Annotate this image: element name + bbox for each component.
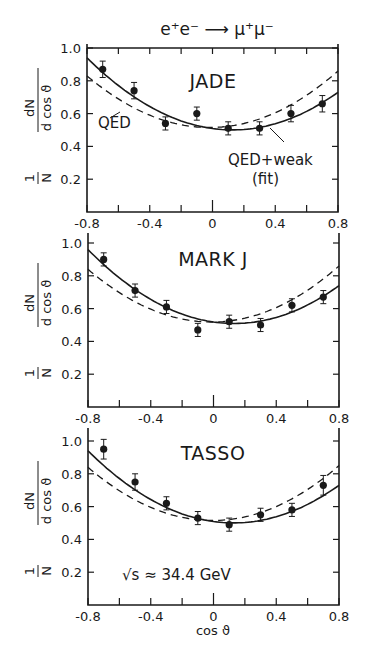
x-tick-label: -0.4 bbox=[138, 609, 163, 624]
marker-dot bbox=[162, 120, 169, 127]
panel-label: MARK J bbox=[178, 248, 248, 270]
y-axis-label: dNd cos ϑ1N bbox=[22, 461, 54, 577]
y-tick-label: 1.0 bbox=[61, 434, 82, 449]
y-tick-label: 0.4 bbox=[60, 139, 81, 154]
data-point bbox=[162, 117, 169, 130]
marker-dot bbox=[194, 326, 201, 333]
y-axis-label: dNd cos ϑ1N bbox=[22, 263, 54, 379]
marker-dot bbox=[320, 482, 327, 489]
data-point bbox=[226, 315, 233, 328]
x-tick-label: 0 bbox=[209, 411, 217, 426]
x-tick-label: 0.8 bbox=[328, 216, 349, 231]
qed-curve bbox=[88, 466, 339, 521]
y-tick-label: 0.2 bbox=[60, 172, 81, 187]
data-point bbox=[193, 107, 200, 120]
data-point bbox=[225, 122, 232, 135]
marker-dot bbox=[256, 125, 263, 132]
marker-dot bbox=[226, 318, 233, 325]
data-point bbox=[130, 82, 137, 98]
data-point bbox=[100, 253, 107, 266]
marker-dot bbox=[257, 511, 264, 518]
marker-dot bbox=[288, 302, 295, 309]
data-point bbox=[194, 512, 201, 525]
marker-dot bbox=[288, 506, 295, 513]
marker-dot bbox=[163, 500, 170, 507]
x-axis-label: cos ϑ bbox=[196, 623, 230, 638]
y-label-one: 1 bbox=[22, 567, 37, 575]
y-tick-label: 0.4 bbox=[61, 334, 82, 349]
x-tick-label: 0.4 bbox=[265, 216, 286, 231]
x-tick-label: -0.8 bbox=[74, 216, 99, 231]
figure: e⁺e⁻ ⟶ μ⁺μ⁻ -0.8-0.400.40.80.20.40.60.81… bbox=[0, 0, 368, 661]
y-tick-label: 0.6 bbox=[61, 302, 82, 317]
marker-dot bbox=[130, 87, 137, 94]
panel-mark-j: -0.8-0.400.40.80.20.40.60.81.0dNd cos ϑ1… bbox=[22, 233, 349, 426]
y-label-numerator: dN bbox=[22, 492, 37, 510]
y-tick-label: 0.2 bbox=[61, 367, 82, 382]
data-point bbox=[163, 300, 170, 313]
energy-annotation: √s ≈ 34.4 GeV bbox=[122, 566, 231, 584]
panel-label: JADE bbox=[189, 70, 237, 92]
data-point bbox=[194, 323, 201, 336]
marker-dot bbox=[287, 110, 294, 117]
x-tick-label: -0.4 bbox=[138, 411, 163, 426]
y-tick-label: 0.8 bbox=[61, 467, 82, 482]
y-label-one: 1 bbox=[22, 369, 37, 377]
x-tick-label: -0.8 bbox=[75, 609, 100, 624]
y-label-denominator: d cos ϑ bbox=[39, 85, 54, 131]
qed-weak-label: QED+weak bbox=[228, 151, 313, 169]
qed-label: QED bbox=[98, 114, 131, 132]
data-point bbox=[320, 475, 327, 495]
y-axis-label: dNd cos ϑ1N bbox=[22, 68, 54, 184]
y-tick-label: 0.2 bbox=[61, 565, 82, 580]
y-tick-label: 1.0 bbox=[61, 236, 82, 251]
marker-dot bbox=[319, 100, 326, 107]
x-tick-label: 0.8 bbox=[329, 411, 350, 426]
y-label-n: N bbox=[39, 368, 54, 378]
marker-dot bbox=[226, 521, 233, 528]
x-tick-label: 0.4 bbox=[266, 609, 287, 624]
marker-dot bbox=[100, 256, 107, 263]
y-label-one: 1 bbox=[22, 174, 37, 182]
y-label-denominator: d cos ϑ bbox=[39, 478, 54, 524]
marker-dot bbox=[131, 478, 138, 485]
figure-title: e⁺e⁻ ⟶ μ⁺μ⁻ bbox=[160, 19, 274, 39]
x-tick-label: 0 bbox=[208, 216, 216, 231]
y-label-n: N bbox=[39, 566, 54, 576]
marker-dot bbox=[320, 294, 327, 301]
y-tick-label: 0.4 bbox=[61, 532, 82, 547]
data-point bbox=[131, 284, 138, 297]
y-label-numerator: dN bbox=[22, 99, 37, 117]
x-tick-label: -0.4 bbox=[137, 216, 162, 231]
marker-dot bbox=[100, 446, 107, 453]
data-point bbox=[288, 503, 295, 516]
marker-dot bbox=[225, 125, 232, 132]
x-tick-label: 0.8 bbox=[329, 609, 350, 624]
y-label-n: N bbox=[39, 173, 54, 183]
panel-label: TASSO bbox=[180, 442, 246, 464]
x-tick-label: 0.4 bbox=[266, 411, 287, 426]
y-tick-label: 0.8 bbox=[61, 269, 82, 284]
y-tick-label: 0.6 bbox=[60, 107, 81, 122]
marker-dot bbox=[99, 66, 106, 73]
y-tick-label: 0.6 bbox=[61, 500, 82, 515]
panel-tasso: -0.8-0.400.40.80.20.40.60.81.0dNd cos ϑ1… bbox=[22, 428, 349, 624]
marker-dot bbox=[194, 514, 201, 521]
data-point bbox=[256, 122, 263, 135]
data-point bbox=[100, 439, 107, 459]
y-label-numerator: dN bbox=[22, 294, 37, 312]
panel-jade: -0.8-0.400.40.80.20.40.60.81.0dNd cos ϑ1… bbox=[22, 41, 348, 231]
data-point bbox=[320, 291, 327, 304]
x-tick-label: -0.8 bbox=[75, 411, 100, 426]
y-label-denominator: d cos ϑ bbox=[39, 280, 54, 326]
data-point bbox=[226, 518, 233, 531]
qed-curve bbox=[88, 266, 339, 322]
marker-dot bbox=[257, 321, 264, 328]
marker-dot bbox=[163, 303, 170, 310]
y-tick-label: 0.8 bbox=[60, 74, 81, 89]
y-tick-label: 1.0 bbox=[60, 41, 81, 56]
x-tick-label: 0 bbox=[209, 609, 217, 624]
data-point bbox=[319, 96, 326, 112]
marker-dot bbox=[131, 287, 138, 294]
qed-weak-pointer-line bbox=[270, 128, 284, 142]
